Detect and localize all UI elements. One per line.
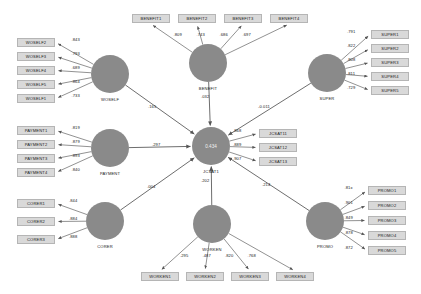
- loading-value-benefit1: .809: [174, 32, 182, 37]
- indicator-box-payment2[interactable]: PAYMENT2: [17, 140, 55, 149]
- loading-value-worken2: .487: [203, 253, 211, 258]
- loading-value-promo1: .81x: [345, 185, 353, 190]
- loading-path-benefit-3: [221, 26, 242, 49]
- loading-value-payment4: .840: [72, 167, 80, 172]
- loading-value-super4: .811: [347, 71, 355, 76]
- construct-label-promo: PROMO: [295, 244, 355, 249]
- loading-path-promo-2: [343, 206, 365, 214]
- construct-node-benefit[interactable]: [189, 44, 227, 82]
- indicator-box-promo4[interactable]: PROMO4: [368, 231, 406, 240]
- indicator-box-promo2[interactable]: PROMO2: [368, 201, 406, 210]
- loading-path-benefit-4: [225, 25, 287, 55]
- loading-value-jcsat11: .868: [233, 128, 241, 133]
- indicator-box-worken1[interactable]: WORKEN1: [141, 272, 179, 281]
- loading-value-worken3: .820: [225, 253, 233, 258]
- loading-value-payment2: .879: [72, 139, 80, 144]
- loading-path-corer-1: [58, 204, 87, 214]
- loading-value-benefit3: .686: [220, 32, 228, 37]
- construct-node-worken[interactable]: [193, 205, 231, 243]
- structural-coef-worken-to-jcsat: .202: [201, 178, 209, 183]
- loading-value-super5: .729: [347, 85, 355, 90]
- construct-node-corer[interactable]: [86, 202, 124, 240]
- indicator-box-benefit2[interactable]: BENEFIT2: [178, 14, 216, 23]
- construct-label-benefit: BENEFIT: [178, 86, 238, 91]
- loading-value-woself2: .843: [72, 37, 80, 42]
- indicator-box-worken3[interactable]: WORKEN3: [231, 272, 269, 281]
- indicator-box-super1[interactable]: SUPER1: [371, 30, 409, 39]
- construct-label-woself: WOSELF: [80, 97, 140, 102]
- loading-path-woself-3: [58, 71, 91, 73]
- loading-value-promo3: .849: [345, 215, 353, 220]
- loading-value-super2: .822: [347, 43, 355, 48]
- indicator-box-payment4[interactable]: PAYMENT4: [17, 168, 55, 177]
- loading-value-corer2: .884: [69, 216, 77, 221]
- indicator-box-corer1[interactable]: CORER1: [17, 199, 55, 208]
- loading-value-jcsat12: .889: [233, 142, 241, 147]
- indicator-box-super3[interactable]: SUPER3: [371, 58, 409, 67]
- indicator-box-corer3[interactable]: CORER3: [17, 235, 55, 244]
- loading-value-benefit4: .697: [243, 32, 251, 37]
- loading-value-payment3: .893: [72, 153, 80, 158]
- indicator-box-woself3[interactable]: WOSELF3: [17, 52, 55, 61]
- indicator-box-super2[interactable]: SUPER2: [371, 44, 409, 53]
- indicator-box-promo5[interactable]: PROMO5: [368, 246, 406, 255]
- indicator-box-super5[interactable]: SUPER5: [371, 86, 409, 95]
- indicator-box-payment1[interactable]: PAYMENT1: [17, 126, 55, 135]
- structural-coef-promo-to-jcsat: .214: [262, 182, 270, 187]
- structural-path-corer-to-jcsat: [121, 158, 195, 210]
- loading-value-promo2: .901: [345, 200, 353, 205]
- loading-path-payment-2: [58, 145, 91, 147]
- indicator-box-worken4[interactable]: WORKEN4: [276, 272, 314, 281]
- construct-label-super: SUPER: [297, 96, 357, 101]
- indicator-box-benefit1[interactable]: BENEFIT1: [132, 14, 170, 23]
- indicator-box-jcsat12[interactable]: JCSAT12: [259, 143, 297, 152]
- loading-value-jcsat13: .907: [233, 156, 241, 161]
- endogenous-label-jcsat: JCSAT1: [181, 169, 241, 174]
- loading-value-promo4: .878: [345, 230, 353, 235]
- indicator-box-woself2[interactable]: WOSELF2: [17, 38, 55, 47]
- construct-node-payment[interactable]: [91, 129, 129, 167]
- loading-value-worken1: .295: [180, 253, 188, 258]
- indicator-box-benefit4[interactable]: BENEFIT4: [270, 14, 308, 23]
- structural-path-woself-to-jcsat: [125, 85, 194, 134]
- loading-path-super-3: [345, 63, 367, 68]
- indicator-box-woself5[interactable]: WOSELF5: [17, 80, 55, 89]
- indicator-box-jcsat11[interactable]: JCSAT11: [259, 129, 297, 138]
- indicator-box-promo3[interactable]: PROMO3: [368, 216, 406, 225]
- loading-value-corer1: .844: [69, 198, 77, 203]
- indicator-box-benefit3[interactable]: BENEFIT3: [224, 14, 262, 23]
- structural-coef-woself-to-jcsat: .165: [148, 104, 156, 109]
- indicator-box-worken2[interactable]: WORKEN2: [186, 272, 224, 281]
- loading-value-super3: .808: [347, 57, 355, 62]
- construct-label-payment: PAYMENT: [80, 171, 140, 176]
- loading-value-payment1: .819: [72, 125, 80, 130]
- loading-value-benefit2: .743: [197, 32, 205, 37]
- construct-label-corer: CORER: [75, 244, 135, 249]
- structural-coef-payment-to-jcsat: .297: [152, 142, 160, 147]
- loading-value-woself4: .689: [72, 65, 80, 70]
- structural-coef-super-to-jcsat: -0.011: [258, 104, 270, 109]
- indicator-box-super4[interactable]: SUPER4: [371, 72, 409, 81]
- construct-label-worken: WORKEN: [182, 247, 242, 252]
- loading-value-worken4: .768: [248, 253, 256, 258]
- indicator-box-promo1[interactable]: PROMO1: [368, 186, 406, 195]
- indicator-box-woself4[interactable]: WOSELF4: [17, 66, 55, 75]
- loading-path-benefit-1: [153, 25, 192, 52]
- endogenous-node-jcsat[interactable]: 0.434: [192, 127, 230, 165]
- construct-node-woself[interactable]: [91, 55, 129, 93]
- construct-node-super[interactable]: [308, 54, 346, 92]
- loading-value-woself1: .733: [72, 93, 80, 98]
- sem-path-diagram: WOSELF2.843WOSELF3.793WOSELF4.689WOSELF5…: [0, 0, 421, 294]
- structural-coef-corer-to-jcsat: .004: [147, 184, 155, 189]
- indicator-box-payment3[interactable]: PAYMENT3: [17, 154, 55, 163]
- structural-coef-benefit-to-jcsat: .032: [201, 94, 209, 99]
- indicator-box-woself1[interactable]: WOSELF1: [17, 94, 55, 103]
- construct-node-promo[interactable]: [306, 202, 344, 240]
- loading-value-woself5: .864: [72, 79, 80, 84]
- loading-value-super1: .791: [347, 29, 355, 34]
- loading-value-corer3: .888: [69, 234, 77, 239]
- loading-path-jcsat-1: [229, 134, 255, 141]
- indicator-box-jcsat13[interactable]: JCSAT13: [259, 157, 297, 166]
- indicator-box-corer2[interactable]: CORER2: [17, 217, 55, 226]
- loading-value-woself3: .793: [72, 51, 80, 56]
